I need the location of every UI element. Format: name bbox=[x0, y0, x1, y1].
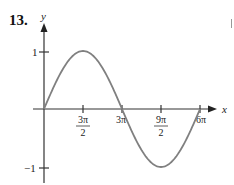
x-tick-9pi-2-num: 9π bbox=[156, 114, 166, 125]
x-tick-3pi-2-num: 3π bbox=[78, 114, 88, 125]
x-tick-9pi-2-den: 2 bbox=[159, 127, 164, 138]
x-axis-label: x bbox=[221, 103, 227, 115]
y-axis-label: y bbox=[40, 10, 46, 22]
x-ticks: 3π 2 3π 9π 2 6π bbox=[76, 105, 206, 138]
y-tick-neg1: −1 bbox=[24, 162, 36, 174]
y-tick-1: 1 bbox=[32, 46, 38, 58]
y-axis-arrow-icon bbox=[41, 23, 48, 32]
x-tick-3pi-2-den: 2 bbox=[81, 127, 86, 138]
y-axis: y bbox=[40, 10, 48, 183]
sine-graph: x y 1 −1 3π 2 3π 9π 2 6π bbox=[0, 0, 234, 185]
y-ticks: 1 −1 bbox=[24, 46, 49, 174]
x-axis-arrow-icon bbox=[208, 106, 217, 113]
